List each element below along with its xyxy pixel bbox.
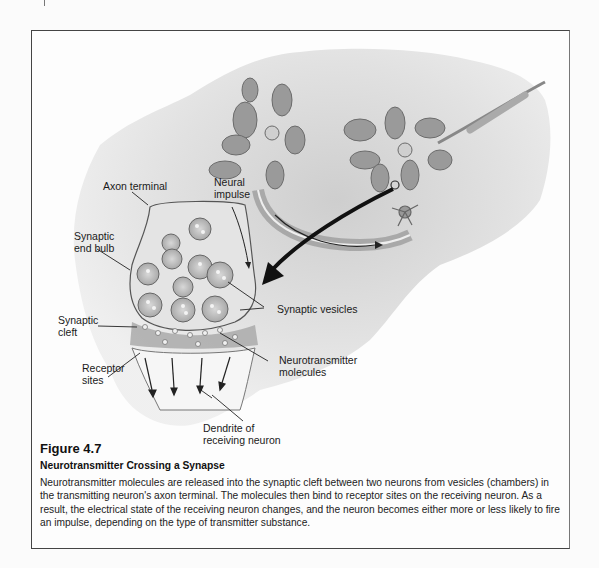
label-synaptic-vesicles: Synaptic vesicles: [277, 303, 358, 315]
figure-caption: Neurotransmitter molecules are released …: [40, 476, 560, 529]
label-synaptic-end-bulb-line1: Synaptic: [74, 230, 114, 242]
label-synaptic-end-bulb-line2: end bulb: [74, 242, 114, 254]
figure-title: Neurotransmitter Crossing a Synapse: [40, 460, 225, 471]
label-dendrite-line2: receiving neuron: [203, 434, 281, 446]
label-neural-impulse-line1: Neural: [214, 176, 245, 188]
label-synaptic-cleft-line1: Synaptic: [58, 314, 98, 326]
label-neural-impulse-line2: impulse: [214, 188, 250, 200]
label-receptor-sites-line1: Receptor: [82, 362, 125, 374]
label-neurotransmitter-molecules-line2: molecules: [279, 366, 326, 378]
label-dendrite-line1: Dendrite of: [203, 422, 254, 434]
label-neurotransmitter-molecules-line1: Neurotransmitter: [279, 354, 357, 366]
label-receptor-sites-line2: sites: [82, 374, 104, 386]
figure-number: Figure 4.7: [40, 441, 101, 456]
label-synaptic-cleft-line2: cleft: [58, 326, 77, 338]
label-axon-terminal: Axon terminal: [103, 180, 167, 192]
